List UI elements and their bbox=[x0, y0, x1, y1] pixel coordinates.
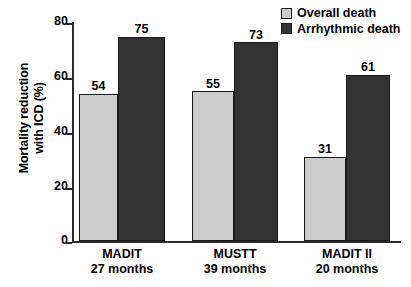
bar-madit-arrhythmic-death[interactable]: 75 bbox=[118, 37, 165, 241]
legend-swatch-icon bbox=[281, 8, 292, 19]
bar-madit-ii-arrhythmic-death[interactable]: 61 bbox=[346, 75, 390, 241]
legend-label: Overall death bbox=[297, 7, 376, 20]
x-category-sublabel: 27 months bbox=[70, 262, 174, 277]
bar-madit-ii-overall-death[interactable]: 31 bbox=[304, 157, 346, 241]
x-category-sublabel: 20 months bbox=[295, 262, 399, 277]
plot-area: 80 60 40 20 0 54 75 55 73 bbox=[72, 22, 401, 243]
x-category-name: MADIT II bbox=[295, 247, 399, 262]
bar-mustt-overall-death[interactable]: 55 bbox=[192, 91, 234, 241]
x-category-name: MUSTT bbox=[183, 247, 287, 262]
y-axis-title-line-2: with ICD (%) bbox=[32, 82, 47, 154]
x-category-madit: MADIT 27 months bbox=[70, 247, 174, 278]
x-axis-line bbox=[72, 241, 401, 243]
bar-chart: Mortality reduction with ICD (%) 80 60 4… bbox=[0, 0, 411, 287]
bar-mustt-arrhythmic-death[interactable]: 73 bbox=[234, 42, 278, 241]
bar-value-label: 31 bbox=[318, 143, 332, 156]
y-axis-title-line-1: Mortality reduction bbox=[17, 63, 32, 174]
x-category-sublabel: 39 months bbox=[183, 262, 287, 277]
x-category-mustt: MUSTT 39 months bbox=[183, 247, 287, 278]
legend-label: Arrhythmic death bbox=[297, 23, 401, 36]
legend-item-arrhythmic-death[interactable]: Arrhythmic death bbox=[281, 23, 401, 36]
bar-value-label: 55 bbox=[206, 78, 220, 91]
y-tick-label: 40 bbox=[54, 125, 68, 138]
x-category-madit-ii: MADIT II 20 months bbox=[295, 247, 399, 278]
bar-value-label: 75 bbox=[135, 23, 149, 36]
bar-madit-overall-death[interactable]: 54 bbox=[79, 94, 118, 241]
y-axis-title: Mortality reduction with ICD (%) bbox=[10, 20, 54, 216]
bar-value-label: 73 bbox=[249, 29, 263, 42]
y-tick-label: 80 bbox=[54, 15, 68, 28]
x-category-name: MADIT bbox=[70, 247, 174, 262]
bar-value-label: 61 bbox=[361, 61, 375, 74]
legend: Overall death Arrhythmic death bbox=[281, 7, 401, 35]
bar-value-label: 54 bbox=[92, 80, 106, 93]
y-axis-line bbox=[72, 22, 74, 243]
y-tick-label: 60 bbox=[54, 70, 68, 83]
y-tick-label: 0 bbox=[61, 234, 68, 247]
y-tick-label: 20 bbox=[54, 180, 68, 193]
legend-swatch-icon bbox=[281, 23, 292, 34]
legend-item-overall-death[interactable]: Overall death bbox=[281, 7, 401, 20]
